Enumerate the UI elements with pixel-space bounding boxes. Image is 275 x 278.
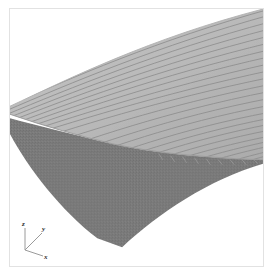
- figure-viewport: z y x: [0, 0, 275, 278]
- axis-label-x: x: [43, 253, 48, 261]
- axis-label-z: z: [21, 220, 25, 228]
- axis-line-x: [25, 250, 43, 256]
- axis-triad-svg: z y x: [15, 220, 61, 262]
- plot-frame: z y x: [9, 8, 264, 267]
- axis-label-y: y: [41, 225, 46, 233]
- axis-line-y: [25, 233, 42, 250]
- coordinate-axis-triad: z y x: [15, 220, 61, 262]
- axis-triad-lines: [25, 228, 43, 256]
